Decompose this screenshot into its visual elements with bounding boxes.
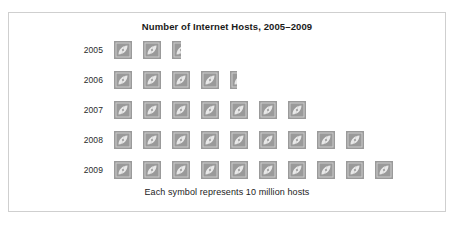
internet-host-symbol (317, 159, 346, 181)
row-symbols-2006 (114, 69, 259, 91)
internet-host-symbol (114, 69, 143, 91)
pictograph-rows: 20052006200720082009 (9, 37, 445, 187)
internet-host-symbol (230, 99, 259, 121)
pictograph-panel: Number of Internet Hosts, 2005–2009 2005… (8, 12, 446, 212)
internet-host-symbol (172, 69, 201, 91)
internet-host-symbol (114, 39, 143, 61)
internet-host-symbol (346, 129, 375, 151)
row-symbols-2008 (114, 129, 375, 151)
internet-host-symbol (172, 159, 201, 181)
internet-host-symbol (288, 99, 317, 121)
internet-host-symbol-partial (172, 39, 201, 61)
page-title: Number of Internet Hosts, 2005–2009 (9, 21, 445, 32)
internet-host-symbol (288, 159, 317, 181)
internet-host-symbol (201, 159, 230, 181)
pictograph-row: 2008 (9, 127, 445, 157)
row-label-2008: 2008 (67, 135, 103, 145)
internet-host-symbol (259, 159, 288, 181)
internet-host-symbol (230, 159, 259, 181)
internet-host-symbol (317, 129, 346, 151)
pictograph-row: 2006 (9, 67, 445, 97)
row-symbols-2009 (114, 159, 404, 181)
internet-host-symbol (143, 129, 172, 151)
internet-host-symbol-partial (230, 69, 259, 91)
internet-host-symbol (375, 159, 404, 181)
internet-host-symbol (259, 99, 288, 121)
internet-host-symbol (288, 129, 317, 151)
internet-host-symbol (172, 129, 201, 151)
internet-host-symbol (230, 129, 259, 151)
pictograph-row: 2009 (9, 157, 445, 187)
internet-host-symbol (143, 39, 172, 61)
row-label-2009: 2009 (67, 165, 103, 175)
internet-host-symbol (201, 69, 230, 91)
internet-host-symbol (201, 129, 230, 151)
internet-host-symbol (143, 69, 172, 91)
internet-host-symbol (114, 99, 143, 121)
row-label-2006: 2006 (67, 75, 103, 85)
internet-host-symbol (259, 129, 288, 151)
pictograph-row: 2007 (9, 97, 445, 127)
row-label-2005: 2005 (67, 45, 103, 55)
row-symbols-2007 (114, 99, 317, 121)
internet-host-symbol (346, 159, 375, 181)
internet-host-symbol (172, 99, 201, 121)
row-symbols-2005 (114, 39, 201, 61)
internet-host-symbol (143, 159, 172, 181)
internet-host-symbol (114, 159, 143, 181)
internet-host-symbol (114, 129, 143, 151)
internet-host-symbol (143, 99, 172, 121)
internet-host-symbol (201, 99, 230, 121)
row-label-2007: 2007 (67, 105, 103, 115)
chart-caption: Each symbol represents 10 million hosts (9, 187, 445, 197)
pictograph-row: 2005 (9, 37, 445, 67)
